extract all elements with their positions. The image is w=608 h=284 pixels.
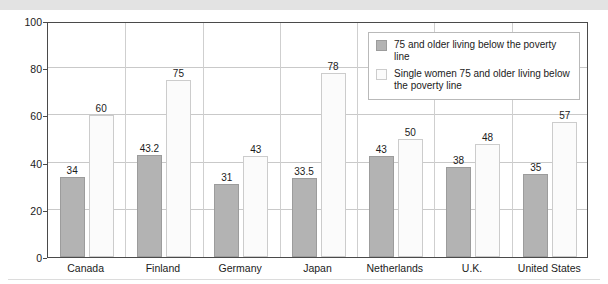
x-axis-category-label: Netherlands	[366, 262, 423, 274]
bar-value-label: 75	[173, 68, 184, 79]
bar: 78	[321, 73, 346, 257]
x-axis-category-label: Germany	[219, 262, 262, 274]
legend-swatch-icon	[376, 69, 387, 80]
bar-value-label: 31	[221, 172, 232, 183]
chart-legend: 75 and older living below the poverty li…	[368, 32, 580, 100]
bar: 38	[446, 167, 471, 257]
bar: 33.5	[292, 178, 317, 257]
x-axis-category-label: Finland	[146, 262, 180, 274]
footer-divider	[8, 279, 600, 280]
x-axis-category-label: Canada	[67, 262, 104, 274]
bar-value-label: 43	[250, 144, 261, 155]
chart-figure: Percent 020406080100 346043.275314333.57…	[0, 0, 608, 284]
x-axis-category-label: Japan	[303, 262, 332, 274]
bar: 60	[89, 115, 114, 257]
bar-value-label: 34	[67, 165, 78, 176]
gridline-vertical	[357, 23, 358, 257]
bar: 43	[369, 156, 394, 257]
bar: 43.2	[137, 155, 162, 257]
top-banner-band	[0, 0, 608, 10]
bar-value-label: 33.5	[294, 166, 313, 177]
bar: 31	[214, 184, 239, 257]
bar: 48	[475, 144, 500, 257]
gridline-horizontal	[48, 162, 587, 163]
bar-value-label: 35	[530, 162, 541, 173]
gridline-vertical	[125, 23, 126, 257]
legend-label: 75 and older living below the poverty li…	[394, 39, 572, 63]
bar: 75	[166, 80, 191, 257]
y-axis-tick-label: 80	[8, 64, 42, 74]
gridline-horizontal	[48, 114, 587, 115]
legend-item-1[interactable]: Single women 75 and older living below t…	[376, 68, 572, 92]
bar-value-label: 38	[453, 155, 464, 166]
bar-value-label: 60	[96, 103, 107, 114]
y-axis-tick-label: 60	[8, 111, 42, 121]
gridline-vertical	[203, 23, 204, 257]
y-axis-tick-label: 20	[8, 206, 42, 216]
bar: 50	[398, 139, 423, 257]
bar-value-label: 43.2	[140, 143, 159, 154]
bar: 57	[552, 122, 577, 257]
y-axis-tick-mark	[43, 258, 47, 259]
gridline-horizontal	[48, 209, 587, 210]
bar: 34	[60, 177, 85, 257]
bar-value-label: 57	[559, 110, 570, 121]
y-axis-tick-label: 0	[8, 253, 42, 263]
y-axis-tick-label: 100	[8, 17, 42, 27]
bar-value-label: 78	[327, 61, 338, 72]
bar-value-label: 48	[482, 132, 493, 143]
x-axis-category-label: United States	[518, 262, 581, 274]
legend-label: Single women 75 and older living below t…	[394, 68, 572, 92]
bar: 35	[523, 174, 548, 257]
legend-swatch-icon	[376, 40, 387, 51]
bar: 43	[243, 156, 268, 257]
gridline-vertical	[280, 23, 281, 257]
y-axis-tick-label: 40	[8, 159, 42, 169]
legend-item-0[interactable]: 75 and older living below the poverty li…	[376, 39, 572, 63]
bar-value-label: 50	[405, 127, 416, 138]
x-axis-category-label: U.K.	[462, 262, 482, 274]
bar-value-label: 43	[376, 144, 387, 155]
